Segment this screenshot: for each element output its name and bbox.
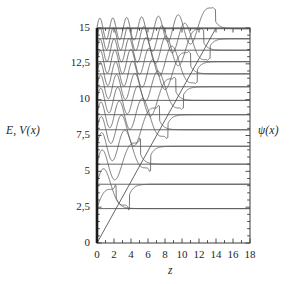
y-tick-label: 15 <box>42 21 90 33</box>
x-tick-label: 18 <box>238 248 262 260</box>
y-tick-label: 12,5 <box>42 56 90 68</box>
x-axis-label: z <box>168 264 173 276</box>
y-axis-label-left: E, V(x) <box>6 124 40 136</box>
y-tick-label: 10 <box>42 92 90 104</box>
y-tick-label: 2,5 <box>42 200 90 212</box>
figure-container: E, V(x) ψ(x) z 02,557,51012,515 02468101… <box>0 0 300 284</box>
y-tick-label: 0 <box>42 236 90 248</box>
y-axis-label-right: ψ(x) <box>258 124 279 136</box>
wavefunction-curves <box>97 7 250 209</box>
y-tick-label: 7,5 <box>42 128 90 140</box>
y-tick-label: 5 <box>42 164 90 176</box>
